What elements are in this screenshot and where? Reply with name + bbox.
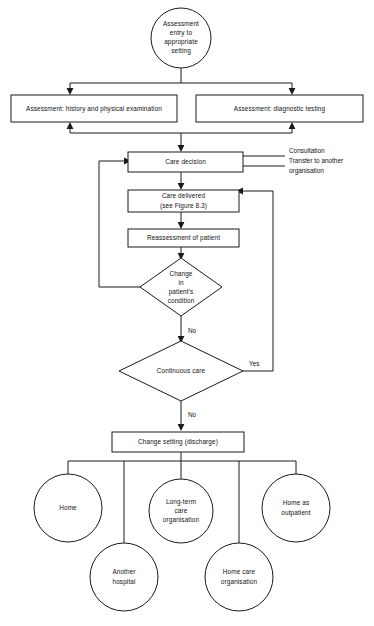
another-hospital-label-line-2: hospital <box>113 578 136 586</box>
arrowhead-to-care-delivered <box>178 183 185 190</box>
entry-label-line-4: setting <box>171 47 191 55</box>
node-another-hospital[interactable]: Another hospital <box>90 543 158 611</box>
side-input-labels: Consultation Transfer to another organis… <box>289 147 344 175</box>
change-condition-label-line-4: condition <box>168 297 195 304</box>
assessment-history-label: Assessment: history and physical examina… <box>26 105 162 113</box>
node-change-setting[interactable]: Change setting (discharge) <box>112 432 244 452</box>
reassessment-label: Reassessment of patient <box>147 234 220 242</box>
long-term-care-label-line-2: care <box>175 507 188 514</box>
node-assessment-diagnostic[interactable]: Assessment: diagnostic testing <box>196 95 363 122</box>
arrowhead-to-change-setting <box>178 424 185 431</box>
node-care-delivered[interactable]: Care delivered (see Figure 8.3) <box>128 190 239 212</box>
node-reassessment[interactable]: Reassessment of patient <box>128 229 239 247</box>
node-home[interactable]: Home <box>34 474 102 542</box>
node-continuous-care[interactable]: Continuous care <box>119 341 243 401</box>
entry-label-line-3: appropriate <box>164 38 198 46</box>
change-setting-label: Change setting (discharge) <box>138 438 218 446</box>
node-care-decision[interactable]: Care decision <box>128 152 243 172</box>
connector-continuous-yes-loop <box>239 191 273 371</box>
change-condition-label-line-2: in <box>178 279 184 286</box>
home-label: Home <box>59 504 77 511</box>
home-as-outpatient-label-line-2: outpatient <box>281 509 310 517</box>
flowchart-diagram: Assessment entry to appropriate setting … <box>0 0 374 626</box>
node-assessment-history[interactable]: Assessment: history and physical examina… <box>11 95 177 122</box>
entry-label-line-2: entry to <box>170 29 193 37</box>
flowchart-canvas: Assessment entry to appropriate setting … <box>0 0 374 626</box>
node-long-term-care[interactable]: Long-term care organisation <box>149 479 213 543</box>
care-delivered-label-line-1: Care delivered <box>162 192 206 199</box>
long-term-care-label-line-3: organisation <box>163 516 200 524</box>
node-home-care-organisation[interactable]: Home care organisation <box>205 543 273 611</box>
another-hospital-label-line-1: Another <box>112 568 136 575</box>
change-condition-label-line-1: Change <box>169 270 192 278</box>
home-as-outpatient-label-line-1: Home as <box>283 499 309 506</box>
arrowhead-to-reassessment <box>178 222 185 229</box>
side-label-transfer: Transfer to another <box>289 157 344 164</box>
entry-label-line-1: Assessment <box>163 20 199 27</box>
edge-label-continuous-care-no: No <box>188 411 197 418</box>
home-care-organisation-label-line-1: Home care <box>223 568 256 575</box>
connector-change-loop-to-care-decision <box>99 161 141 287</box>
side-label-consultation: Consultation <box>289 147 325 154</box>
assessment-diagnostic-label: Assessment: diagnostic testing <box>234 105 326 113</box>
side-input-connectors <box>243 156 285 166</box>
node-home-as-outpatient[interactable]: Home as outpatient <box>262 474 330 542</box>
arrowhead-to-diagnostic <box>289 88 296 95</box>
arrowhead-to-care-decision <box>178 145 185 152</box>
home-care-organisation-label-line-2: organisation <box>221 578 258 586</box>
edge-label-continuous-care-yes: Yes <box>249 360 259 367</box>
care-delivered-label-line-2: (see Figure 8.3) <box>160 202 207 210</box>
arrowhead-to-history <box>67 88 74 95</box>
arrowhead-up-history <box>67 122 74 129</box>
change-condition-label-line-3: patient's <box>169 288 194 296</box>
care-decision-label: Care decision <box>165 158 206 165</box>
edge-label-change-condition-no: No <box>188 327 197 334</box>
continuous-care-label: Continuous care <box>157 367 206 374</box>
long-term-care-label-line-1: Long-term <box>166 498 196 506</box>
node-change-condition[interactable]: Change in patient's condition <box>140 258 222 316</box>
side-label-organisation: organisation <box>289 167 324 175</box>
node-entry[interactable]: Assessment entry to appropriate setting <box>151 8 211 68</box>
arrowhead-up-diagnostic <box>289 122 296 129</box>
